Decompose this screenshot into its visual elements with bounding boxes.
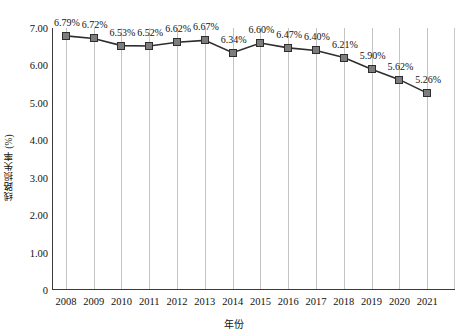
data-point-marker	[395, 76, 403, 84]
data-point-label: 6.67%	[193, 21, 219, 32]
data-point-label: 6.40%	[304, 31, 330, 42]
x-tick-label: 2019	[361, 296, 382, 307]
y-tick-label: 1.00	[2, 247, 48, 258]
y-axis-line	[52, 28, 53, 290]
line-chart: 线路损失率 (%) 7.006.005.004.003.002.001.000 …	[0, 0, 468, 336]
data-point-label: 5.90%	[360, 50, 386, 61]
data-point-label: 6.34%	[221, 34, 247, 45]
x-tick-label: 2015	[250, 296, 271, 307]
data-point-marker	[423, 89, 431, 97]
data-point-marker	[173, 38, 181, 46]
x-tick-label: 2009	[83, 296, 104, 307]
y-tick-label: 2.00	[2, 210, 48, 221]
data-point-label: 6.47%	[276, 29, 302, 40]
x-tick-label: 2016	[278, 296, 299, 307]
data-point-marker	[284, 44, 292, 52]
x-tick-label: 2010	[111, 296, 132, 307]
plot-area: 6.79%6.72%6.53%6.52%6.62%6.67%6.34%6.60%…	[52, 28, 455, 290]
y-tick-label: 0	[2, 285, 48, 296]
y-tick-label: 7.00	[2, 23, 48, 34]
data-point-marker	[62, 32, 70, 40]
x-tick-label: 2017	[306, 296, 327, 307]
y-axis-tick-labels: 7.006.005.004.003.002.001.000	[0, 0, 48, 336]
data-point-marker	[90, 34, 98, 42]
x-tick-label: 2008	[55, 296, 76, 307]
data-point-marker	[117, 42, 125, 50]
data-point-marker	[145, 42, 153, 50]
y-tick-label: 3.00	[2, 172, 48, 183]
data-point-label: 6.21%	[332, 39, 358, 50]
x-tick-label: 2020	[389, 296, 410, 307]
data-point-marker	[201, 36, 209, 44]
x-tick-label: 2014	[222, 296, 243, 307]
x-tick-label: 2011	[139, 296, 160, 307]
data-point-label: 5.62%	[387, 61, 413, 72]
x-axis-tick-labels: 2008200920102011201220132014201520162017…	[52, 296, 455, 312]
data-point-marker	[340, 54, 348, 62]
data-point-marker	[368, 65, 376, 73]
data-point-label: 6.52%	[137, 27, 163, 38]
data-point-marker	[312, 46, 320, 54]
data-point-marker	[256, 39, 264, 47]
y-tick-label: 5.00	[2, 97, 48, 108]
y-tick-label: 6.00	[2, 60, 48, 71]
data-point-label: 6.72%	[82, 19, 108, 30]
x-tick-label: 2013	[194, 296, 215, 307]
data-point-label: 5.26%	[415, 74, 441, 85]
data-point-label: 6.60%	[249, 24, 275, 35]
x-tick-label: 2021	[417, 296, 438, 307]
x-axis-title: 年份	[0, 316, 468, 331]
data-point-label: 6.62%	[165, 23, 191, 34]
data-point-marker	[229, 49, 237, 57]
x-tick-label: 2018	[333, 296, 354, 307]
data-point-label: 6.79%	[54, 17, 80, 28]
data-point-label: 6.53%	[110, 27, 136, 38]
y-tick-label: 4.00	[2, 135, 48, 146]
x-tick-label: 2012	[167, 296, 188, 307]
x-axis-line	[52, 289, 455, 290]
